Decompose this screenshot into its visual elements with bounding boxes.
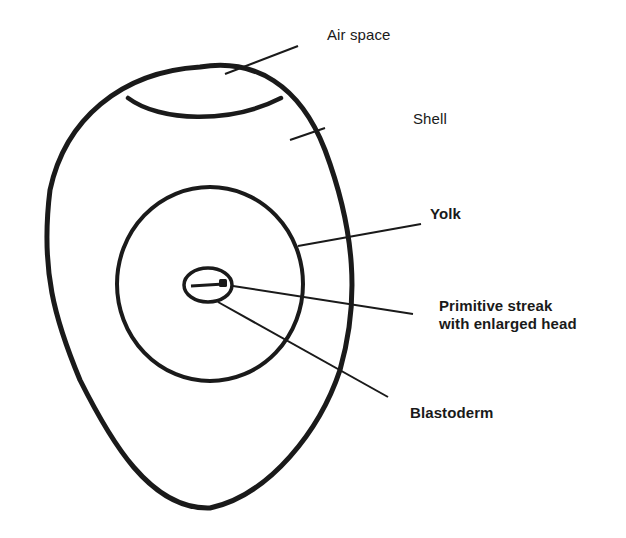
blastoderm-leader xyxy=(218,302,388,397)
primitive-streak-label-line1: Primitive streak xyxy=(439,296,552,315)
shell-label: Shell xyxy=(413,109,447,128)
primitive-streak-label-line2: with enlarged head xyxy=(439,314,577,333)
egg-diagram-drawing xyxy=(0,0,626,538)
air-space-label: Air space xyxy=(327,25,390,44)
yolk-label: Yolk xyxy=(430,204,461,223)
air-space-boundary xyxy=(128,98,281,117)
air-space-leader xyxy=(225,46,298,74)
egg-diagram: Air space Shell Yolk Primitive streak wi… xyxy=(0,0,626,538)
primitive-streak-head xyxy=(219,279,227,287)
primitive-streak-leader xyxy=(233,286,413,314)
blastoderm-label: Blastoderm xyxy=(410,403,494,422)
yolk-leader xyxy=(298,224,421,246)
